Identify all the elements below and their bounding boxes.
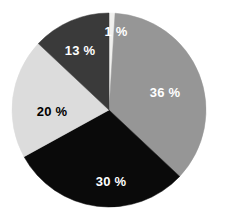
- pie-slice-group: [12, 13, 206, 207]
- pie-chart: 1 % 36 % 30 % 20 % 13 %: [0, 0, 225, 218]
- pie-chart-svg: [0, 0, 225, 218]
